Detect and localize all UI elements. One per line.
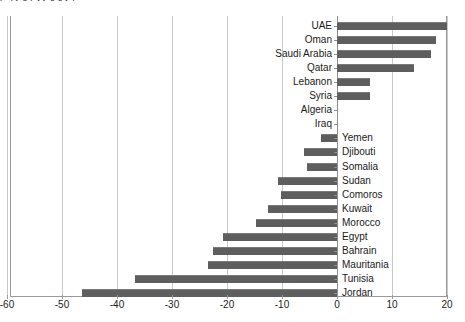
x-tick-label--60: -60 xyxy=(0,299,27,310)
category-label-sudan: Sudan xyxy=(342,174,371,187)
axis-tick xyxy=(334,110,337,111)
category-label-oman: Oman xyxy=(305,33,332,46)
axis-tick xyxy=(334,223,337,224)
x-tick-label--10: -10 xyxy=(262,299,302,310)
category-label-syria: Syria xyxy=(309,89,332,102)
category-label-tunisia: Tunisia xyxy=(342,272,374,285)
x-tick-label--50: -50 xyxy=(42,299,82,310)
axis-tick xyxy=(334,40,337,41)
bar-comoros xyxy=(281,191,337,199)
x-tick-label-0: 0 xyxy=(317,299,357,310)
bar-somalia xyxy=(307,163,337,171)
axis-tick xyxy=(334,26,337,27)
axis-tick xyxy=(334,265,337,266)
category-label-kuwait: Kuwait xyxy=(342,202,372,215)
x-tick-mark--10 xyxy=(282,295,283,299)
axis-tick xyxy=(334,68,337,69)
axis-tick xyxy=(334,124,337,125)
category-label-jordan: Jordan xyxy=(342,286,373,299)
bar-morocco xyxy=(256,219,337,227)
category-label-bahrain: Bahrain xyxy=(342,244,376,257)
x-axis: -60-50-40-30-20-1001020 xyxy=(0,299,465,319)
x-tick-mark--30 xyxy=(172,295,173,299)
x-tick-mark--20 xyxy=(227,295,228,299)
bar-jordan xyxy=(82,289,337,297)
axis-tick xyxy=(334,195,337,196)
axis-tick xyxy=(334,251,337,252)
bar-sudan xyxy=(278,177,337,185)
bar-syria xyxy=(337,92,370,100)
bar-uae xyxy=(337,22,447,30)
x-tick-mark-20 xyxy=(447,295,448,299)
axis-tick xyxy=(334,96,337,97)
x-tick-mark--60 xyxy=(7,295,8,299)
category-label-djibouti: Djibouti xyxy=(342,145,375,158)
x-tick-label--40: -40 xyxy=(97,299,137,310)
x-tick-mark-10 xyxy=(392,295,393,299)
bars-layer: UAEOmanSaudi ArabiaQatarLebanonSyriaAlge… xyxy=(0,16,465,297)
x-tick-label-10: 10 xyxy=(372,299,412,310)
axis-tick xyxy=(334,279,337,280)
axis-tick xyxy=(334,181,337,182)
category-label-comoros: Comoros xyxy=(342,188,383,201)
category-label-morocco: Morocco xyxy=(342,216,380,229)
bar-lebanon xyxy=(337,78,370,86)
category-label-yemen: Yemen xyxy=(342,131,373,144)
category-label-algeria: Algeria xyxy=(301,103,332,116)
bar-kuwait xyxy=(268,205,337,213)
category-label-somalia: Somalia xyxy=(342,160,378,173)
bar-bahrain xyxy=(213,247,337,255)
x-tick-label--30: -30 xyxy=(152,299,192,310)
bar-saudi-arabia xyxy=(337,50,431,58)
category-label-egypt: Egypt xyxy=(342,230,368,243)
x-tick-mark--50 xyxy=(62,295,63,299)
category-label-mauritania: Mauritania xyxy=(342,258,389,271)
bar-tunisia xyxy=(135,275,337,283)
bar-mauritania xyxy=(208,261,337,269)
axis-tick xyxy=(334,82,337,83)
bar-egypt xyxy=(223,233,337,241)
axis-tick xyxy=(334,209,337,210)
bar-chart: p q y g p j y g g y p UAEOmanSaudi Arabi… xyxy=(0,0,465,322)
bar-djibouti xyxy=(304,148,337,156)
x-tick-label-20: 20 xyxy=(427,299,465,310)
bar-oman xyxy=(337,36,436,44)
axis-tick xyxy=(334,54,337,55)
x-tick-mark--40 xyxy=(117,295,118,299)
bar-qatar xyxy=(337,64,414,72)
category-label-lebanon: Lebanon xyxy=(293,75,332,88)
axis-tick xyxy=(334,152,337,153)
axis-tick xyxy=(334,167,337,168)
category-label-uae: UAE xyxy=(311,19,332,32)
cropped-title-text: p q y g p j y g g y p xyxy=(0,0,465,3)
axis-tick xyxy=(334,237,337,238)
x-tick-mark-0 xyxy=(337,295,338,299)
axis-tick xyxy=(334,138,337,139)
category-label-saudi-arabia: Saudi Arabia xyxy=(275,47,332,60)
category-label-qatar: Qatar xyxy=(307,61,332,74)
category-label-iraq: Iraq xyxy=(315,117,332,130)
x-tick-label--20: -20 xyxy=(207,299,247,310)
axis-tick xyxy=(334,293,337,294)
